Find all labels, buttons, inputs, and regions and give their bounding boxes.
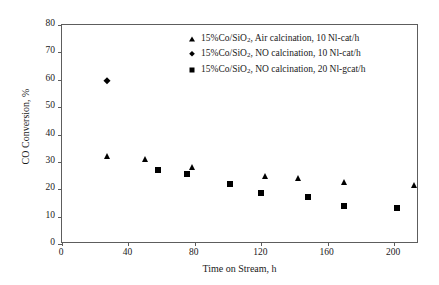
x-axis-tick-labels: 04080120160200 xyxy=(61,248,418,262)
y-axis-tick-mark xyxy=(58,107,62,108)
y-axis-tick-label: 80 xyxy=(46,19,56,29)
data-point-triangle xyxy=(411,182,417,188)
data-point-square xyxy=(184,171,190,177)
y-axis-tick-mark xyxy=(58,189,62,190)
data-point-square xyxy=(227,181,233,187)
y-axis-tick-label: 10 xyxy=(46,211,56,221)
legend-label: 15%Co/SiO2, NO calcination, 20 Nl-gcat/h xyxy=(201,65,365,75)
legend-label-prefix: 15%Co/SiO xyxy=(201,64,247,74)
data-point-square xyxy=(155,167,161,173)
data-point-triangle xyxy=(341,179,347,185)
data-point-square xyxy=(394,205,400,211)
legend-item: 15%Co/SiO2, Air calcination, 10 Nl-cat/h xyxy=(186,31,396,47)
data-point-triangle xyxy=(262,173,268,179)
y-axis-title: CO Conversion, % xyxy=(20,57,31,197)
x-axis-tick-label: 0 xyxy=(59,248,64,258)
x-axis-tick-mark xyxy=(328,242,329,246)
legend-item: 15%Co/SiO2, NO calcination, 10 Nl-cat/h xyxy=(186,47,396,63)
y-axis-tick-mark xyxy=(58,52,62,53)
data-point-square xyxy=(258,190,264,196)
data-point-triangle xyxy=(142,156,148,162)
x-axis-tick-label: 40 xyxy=(123,248,133,258)
x-axis-tick-mark xyxy=(195,242,196,246)
data-point-diamond xyxy=(103,77,111,85)
y-axis-tick-labels: 01020304050607080 xyxy=(30,24,55,243)
co-conversion-scatter-chart: 01020304050607080 04080120160200 Time on… xyxy=(0,0,439,285)
y-axis-tick-mark xyxy=(58,162,62,163)
x-axis-tick-mark xyxy=(261,242,262,246)
x-axis-tick-mark xyxy=(128,242,129,246)
data-point-triangle xyxy=(104,153,110,159)
legend-marker-triangle-icon xyxy=(186,34,198,44)
legend: 15%Co/SiO2, Air calcination, 10 Nl-cat/h… xyxy=(186,31,396,78)
y-axis-tick-mark xyxy=(58,80,62,81)
y-axis-tick-label: 0 xyxy=(50,238,55,248)
y-axis-tick-label: 70 xyxy=(46,47,56,57)
legend-label-suffix: , NO calcination, 10 Nl-cat/h xyxy=(250,48,360,58)
y-axis-tick-label: 30 xyxy=(46,156,56,166)
x-axis-tick-mark xyxy=(394,242,395,246)
legend-label-suffix: , NO calcination, 20 Nl-gcat/h xyxy=(250,64,365,74)
y-axis-tick-mark xyxy=(58,25,62,26)
data-point-triangle xyxy=(295,175,301,181)
y-axis-tick-label: 60 xyxy=(46,74,56,84)
y-axis-tick-mark xyxy=(58,135,62,136)
y-axis-tick-label: 40 xyxy=(46,129,56,139)
legend-label: 15%Co/SiO2, NO calcination, 10 Nl-cat/h xyxy=(201,49,361,59)
legend-label-suffix: , Air calcination, 10 Nl-cat/h xyxy=(250,33,359,43)
data-point-square xyxy=(305,194,311,200)
y-axis-tick-label: 20 xyxy=(46,184,56,194)
x-axis-tick-label: 200 xyxy=(386,248,400,258)
y-axis-tick-label: 50 xyxy=(46,101,56,111)
data-point-square xyxy=(341,203,347,209)
y-axis-tick-mark xyxy=(58,217,62,218)
x-axis-tick-label: 80 xyxy=(189,248,199,258)
x-axis-title: Time on Stream, h xyxy=(61,263,418,274)
legend-item: 15%Co/SiO2, NO calcination, 20 Nl-gcat/h xyxy=(186,62,396,78)
legend-label: 15%Co/SiO2, Air calcination, 10 Nl-cat/h xyxy=(201,34,359,44)
data-point-triangle xyxy=(189,164,195,170)
legend-marker-square-icon xyxy=(186,65,198,75)
x-axis-tick-label: 160 xyxy=(320,248,334,258)
legend-label-prefix: 15%Co/SiO xyxy=(201,33,247,43)
x-axis-tick-label: 120 xyxy=(253,248,267,258)
legend-label-prefix: 15%Co/SiO xyxy=(201,48,247,58)
x-axis-tick-mark xyxy=(62,242,63,246)
legend-marker-diamond-icon xyxy=(186,49,198,59)
